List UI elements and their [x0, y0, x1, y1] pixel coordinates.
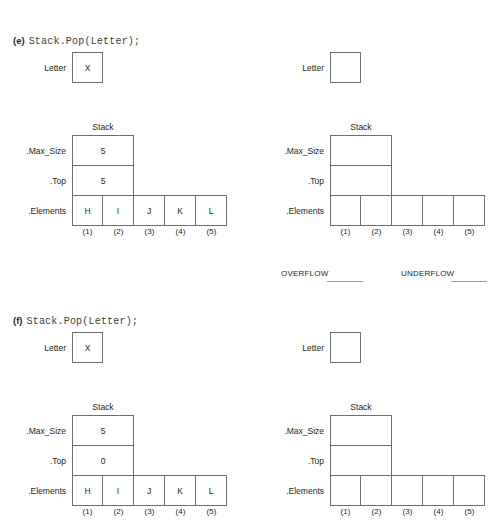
overflow-flag: OVERFLOW [281, 262, 328, 280]
index-label: (5) [454, 227, 485, 236]
section-e-before-letter-label: Letter [44, 63, 66, 73]
section-f-before-letter-box[interactable]: X [72, 332, 103, 363]
overflow-label: OVERFLOW [281, 269, 328, 278]
section-e-marker: (e) [13, 35, 25, 46]
section-f-before-maxsize-label: .Max_Size [26, 426, 66, 436]
section-f-before-letter-label: Letter [44, 343, 66, 353]
section-f-after-stack-title: Stack [330, 402, 392, 412]
section-f-code: Stack.Pop(Letter); [27, 316, 139, 327]
index-label: (2) [103, 227, 134, 236]
section-f-after-index-row: (1) (2) (3) (4) (5) [330, 507, 485, 516]
index-label: (3) [134, 507, 165, 516]
section-e-after-letter-box[interactable] [330, 52, 361, 83]
section-e-before-letter-box[interactable]: X [72, 52, 103, 83]
section-e-before-stack-title: Stack [72, 122, 134, 132]
index-label: (2) [103, 507, 134, 516]
section-f-after-top-label: .Top [308, 456, 324, 466]
section-e-before-elements-label: .Elements [28, 206, 66, 216]
element-cell[interactable] [423, 475, 454, 506]
element-cell[interactable] [454, 195, 485, 226]
section-e-heading: (e)Stack.Pop(Letter); [13, 33, 140, 48]
index-label: (5) [196, 507, 227, 516]
index-label: (1) [72, 507, 103, 516]
section-f-before-elements-label: .Elements [28, 486, 66, 496]
section-e-after-top-cell[interactable] [330, 165, 392, 196]
element-cell[interactable]: J [134, 475, 165, 506]
section-e-before-top-cell[interactable]: 5 [72, 165, 134, 196]
section-e-before-maxsize-cell[interactable]: 5 [72, 135, 134, 166]
element-cell[interactable]: H [72, 475, 103, 506]
section-f-after-maxsize-label: .Max_Size [284, 426, 324, 436]
overflow-answer-blank[interactable] [327, 281, 363, 282]
element-cell[interactable] [361, 195, 392, 226]
element-cell[interactable] [361, 475, 392, 506]
section-e-after-letter-label: Letter [302, 63, 324, 73]
index-label: (3) [392, 227, 423, 236]
section-f-before-letter-group: Letter X [72, 332, 103, 363]
section-e-after-index-row: (1) (2) (3) (4) (5) [330, 227, 485, 236]
section-e-after-elements-row [330, 195, 485, 226]
section-f-after-elements-row [330, 475, 485, 506]
element-cell[interactable] [392, 475, 423, 506]
section-e-before-index-row: (1) (2) (3) (4) (5) [72, 227, 227, 236]
section-f-before-maxsize-cell[interactable]: 5 [72, 415, 134, 446]
section-e-after-letter-group: Letter [330, 52, 361, 83]
element-cell[interactable] [392, 195, 423, 226]
index-label: (1) [330, 227, 361, 236]
index-label: (3) [392, 507, 423, 516]
index-label: (1) [72, 227, 103, 236]
index-label: (4) [165, 227, 196, 236]
index-label: (1) [330, 507, 361, 516]
section-e-after-maxsize-label: .Max_Size [284, 146, 324, 156]
section-f-after-letter-group: Letter [330, 332, 361, 363]
section-e-after-elements-label: .Elements [286, 206, 324, 216]
section-f-before-top-cell[interactable]: 0 [72, 445, 134, 476]
index-label: (4) [423, 227, 454, 236]
underflow-answer-blank[interactable] [451, 281, 487, 282]
section-f-after-top-cell[interactable] [330, 445, 392, 476]
section-f-heading: (f)Stack.Pop(Letter); [13, 313, 138, 328]
element-cell[interactable]: H [72, 195, 103, 226]
element-cell[interactable]: I [103, 475, 134, 506]
section-e-before-elements-row: H I J K L [72, 195, 227, 226]
index-label: (2) [361, 227, 392, 236]
index-label: (5) [196, 227, 227, 236]
element-cell[interactable]: L [196, 475, 227, 506]
section-f-after-maxsize-cell[interactable] [330, 415, 392, 446]
index-label: (5) [454, 507, 485, 516]
element-cell[interactable]: I [103, 195, 134, 226]
section-e-code: Stack.Pop(Letter); [29, 36, 141, 47]
underflow-label: UNDERFLOW [401, 269, 454, 278]
section-e-before-maxsize-label: .Max_Size [26, 146, 66, 156]
section-f-before-top-label: .Top [50, 456, 66, 466]
index-label: (4) [423, 507, 454, 516]
section-e-after-top-label: .Top [308, 176, 324, 186]
section-e-before-top-label: .Top [50, 176, 66, 186]
section-f-before-stack-title: Stack [72, 402, 134, 412]
section-e-before-letter-group: Letter X [72, 52, 103, 83]
section-e-after-maxsize-cell[interactable] [330, 135, 392, 166]
section-f-after-letter-label: Letter [302, 343, 324, 353]
index-label: (3) [134, 227, 165, 236]
element-cell[interactable] [330, 195, 361, 226]
underflow-flag: UNDERFLOW [401, 262, 454, 280]
element-cell[interactable]: K [165, 195, 196, 226]
element-cell[interactable] [423, 195, 454, 226]
section-f-before-index-row: (1) (2) (3) (4) (5) [72, 507, 227, 516]
index-label: (4) [165, 507, 196, 516]
element-cell[interactable]: K [165, 475, 196, 506]
section-e-after-stack-title: Stack [330, 122, 392, 132]
element-cell[interactable]: L [196, 195, 227, 226]
element-cell[interactable] [330, 475, 361, 506]
element-cell[interactable] [454, 475, 485, 506]
element-cell[interactable]: J [134, 195, 165, 226]
section-f-after-elements-label: .Elements [286, 486, 324, 496]
section-f-marker: (f) [13, 315, 23, 326]
index-label: (2) [361, 507, 392, 516]
section-f-before-elements-row: H I J K L [72, 475, 227, 506]
section-f-after-letter-box[interactable] [330, 332, 361, 363]
